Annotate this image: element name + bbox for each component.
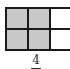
fraction-numerator: 4 bbox=[32, 55, 40, 66]
unshaded-cell bbox=[51, 30, 70, 51]
shaded-cell bbox=[29, 30, 51, 51]
fraction-label: 4 bbox=[30, 55, 42, 69]
shaded-cell bbox=[29, 9, 51, 30]
unshaded-cell bbox=[51, 9, 70, 30]
shaded-cell bbox=[7, 30, 29, 51]
fraction-grid bbox=[5, 7, 70, 51]
fraction-bar bbox=[31, 68, 41, 69]
shaded-cell bbox=[7, 9, 29, 30]
